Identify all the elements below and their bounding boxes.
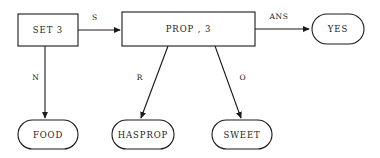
node-set3[interactable]: SET 3: [18, 14, 78, 46]
node-sweet[interactable]: SWEET: [212, 120, 272, 149]
node-prop3-label: PROP , 3: [166, 24, 212, 34]
edge-n-label: N: [32, 73, 39, 82]
node-hasprop-label: HASPROP: [118, 130, 168, 140]
edge-o-line: [215, 46, 241, 118]
node-set3-label: SET 3: [33, 25, 63, 35]
node-yes-label: YES: [327, 24, 348, 34]
edge-r-line: [141, 46, 168, 118]
flowchart-diagram: SET 3 PROP , 3 YES FOOD HASPROP SWEET S …: [0, 0, 380, 158]
edge-s-label: S: [92, 13, 98, 22]
node-food[interactable]: FOOD: [18, 120, 78, 149]
node-sweet-label: SWEET: [223, 130, 260, 140]
edge-o-label: O: [240, 73, 247, 82]
edge-ans-label: ANS: [268, 12, 288, 21]
edge-r-label: R: [137, 73, 143, 82]
node-yes[interactable]: YES: [312, 14, 364, 44]
node-hasprop[interactable]: HASPROP: [112, 120, 174, 149]
node-prop3[interactable]: PROP , 3: [122, 12, 255, 46]
node-food-label: FOOD: [33, 130, 63, 140]
diagram-canvas: SET 3 PROP , 3 YES FOOD HASPROP SWEET S …: [0, 0, 380, 158]
